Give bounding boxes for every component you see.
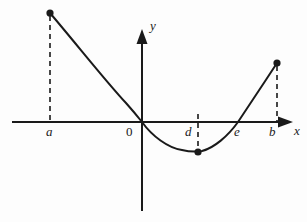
function-graph-figure: a 0 d e b x y [0, 0, 307, 222]
label-b: b [269, 125, 276, 138]
label-origin: 0 [126, 125, 133, 138]
graph-canvas [0, 0, 307, 222]
x-axis-arrowhead [278, 117, 293, 128]
y-axis-arrowhead [137, 29, 148, 44]
label-a: a [46, 125, 53, 138]
point-marker-d-minimum [194, 148, 201, 155]
point-marker-b [273, 59, 280, 66]
label-x-axis: x [294, 124, 300, 137]
label-d: d [185, 125, 192, 138]
function-curve [50, 13, 277, 152]
point-marker-a [46, 9, 53, 16]
label-y-axis: y [150, 19, 156, 32]
label-e: e [234, 125, 240, 138]
